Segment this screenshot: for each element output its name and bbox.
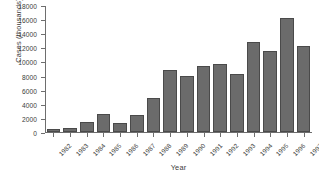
x-tick-label: 1985: [108, 142, 123, 157]
bar-chart: Cases (thousands) 0200040006000800010000…: [0, 0, 319, 178]
y-tick: 14000: [41, 34, 45, 35]
x-tick-label: 1990: [191, 142, 206, 157]
y-tick-label: 4000: [22, 101, 37, 108]
x-tick-label: 1986: [124, 142, 139, 157]
x-axis-title: Year: [45, 163, 312, 172]
x-tick-label: 1987: [141, 142, 156, 157]
x-tick-label: 1983: [74, 142, 89, 157]
y-tick: 12000: [41, 48, 45, 49]
x-tick: 1987: [137, 133, 138, 137]
x-tick-label: 1995: [275, 142, 290, 157]
x-tick: 1984: [87, 133, 88, 137]
x-tick-label: 1984: [91, 142, 106, 157]
y-tick-label: 10000: [18, 59, 37, 66]
bar: [147, 98, 161, 132]
bar: [80, 122, 94, 132]
y-tick-label: 18000: [18, 3, 37, 10]
bar: [197, 66, 211, 132]
y-tick-label: 12000: [18, 45, 37, 52]
bar: [297, 46, 311, 132]
y-tick: 4000: [41, 105, 45, 106]
y-tick: 10000: [41, 62, 45, 63]
x-tick: 1993: [237, 133, 238, 137]
x-axis-line: [45, 132, 312, 133]
y-tick-label: 8000: [22, 73, 37, 80]
bar: [247, 42, 261, 132]
x-tick-label: 1991: [208, 142, 223, 157]
bar: [230, 74, 244, 132]
x-tick: 1991: [204, 133, 205, 137]
bar: [263, 51, 277, 132]
y-tick: 8000: [41, 77, 45, 78]
x-tick-label: 1993: [241, 142, 256, 157]
y-tick: 6000: [41, 91, 45, 92]
x-tick: 1992: [220, 133, 221, 137]
y-tick-label: 2000: [22, 115, 37, 122]
bar: [47, 129, 61, 132]
x-tick: 1994: [254, 133, 255, 137]
x-tick: 1988: [153, 133, 154, 137]
bar: [97, 114, 111, 132]
bar: [63, 128, 77, 132]
x-tick-label: 1989: [174, 142, 189, 157]
x-tick: 1996: [287, 133, 288, 137]
y-tick: 18000: [41, 6, 45, 7]
x-tick-label: 1988: [158, 142, 173, 157]
x-tick-label: 1994: [258, 142, 273, 157]
y-tick: 0: [41, 133, 45, 134]
x-tick-label: 1982: [58, 142, 73, 157]
bar: [113, 123, 127, 132]
y-axis-line: [45, 6, 46, 133]
x-tick: 1990: [187, 133, 188, 137]
bar: [213, 64, 227, 132]
plot-area: 0200040006000800010000120001400016000180…: [45, 6, 312, 133]
x-tick-label: 1997: [308, 142, 319, 157]
y-tick: 2000: [41, 119, 45, 120]
y-tick-label: 6000: [22, 87, 37, 94]
x-tick: 1995: [270, 133, 271, 137]
bar: [130, 115, 144, 132]
x-tick: 1989: [170, 133, 171, 137]
bar: [163, 70, 177, 132]
y-tick-label: 16000: [18, 17, 37, 24]
x-tick: 1983: [70, 133, 71, 137]
bar: [180, 76, 194, 132]
y-tick: 16000: [41, 20, 45, 21]
x-tick: 1986: [120, 133, 121, 137]
x-tick: 1982: [53, 133, 54, 137]
x-tick-label: 1992: [225, 142, 240, 157]
y-tick-label: 0: [33, 130, 37, 137]
bar: [280, 18, 294, 132]
x-tick: 1997: [304, 133, 305, 137]
y-tick-label: 14000: [18, 31, 37, 38]
x-tick: 1985: [103, 133, 104, 137]
x-tick-label: 1996: [291, 142, 306, 157]
